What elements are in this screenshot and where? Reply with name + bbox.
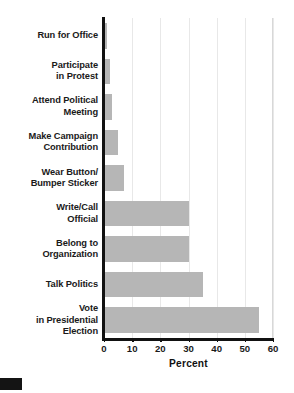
category-label-5: Wear Button/Bumper Sticker — [0, 167, 98, 190]
category-label-line: Participate — [0, 60, 98, 71]
category-label-line: Belong to — [0, 238, 98, 249]
category-label-8: Talk Politics — [0, 279, 98, 290]
category-label-2: Participatein Protest — [0, 60, 98, 83]
bar-row — [104, 18, 273, 54]
x-tick-label-10: 10 — [127, 343, 138, 354]
bar-2 — [104, 59, 110, 85]
category-label-1: Run for Office — [0, 30, 98, 41]
x-tick-mark-20 — [160, 338, 161, 342]
plot-area — [104, 18, 273, 338]
x-tick-mark-60 — [273, 338, 274, 342]
x-tick-mark-0 — [104, 338, 105, 342]
x-tick-mark-30 — [189, 338, 190, 342]
bar-6 — [104, 201, 189, 227]
bar-9 — [104, 307, 259, 333]
x-axis-tick-labels: 0102030405060 — [104, 343, 273, 357]
x-tick-label-0: 0 — [101, 343, 106, 354]
bar-row — [104, 231, 273, 267]
x-tick-mark-10 — [132, 338, 133, 342]
x-tick-label-50: 50 — [239, 343, 250, 354]
category-label-line: Attend Political — [0, 95, 98, 106]
category-label-6: Write/CallOfficial — [0, 202, 98, 225]
bar-3 — [104, 94, 112, 120]
bar-row — [104, 160, 273, 196]
bar-row — [104, 54, 273, 90]
category-label-3: Attend PoliticalMeeting — [0, 95, 98, 118]
gridline-60 — [273, 18, 274, 338]
category-label-line: Talk Politics — [0, 279, 98, 290]
y-axis-line — [102, 17, 105, 339]
category-label-line: Vote — [0, 303, 98, 314]
category-label-7: Belong toOrganization — [0, 238, 98, 261]
x-tick-label-60: 60 — [268, 343, 279, 354]
category-label-line: Official — [0, 214, 98, 225]
category-label-line: in Protest — [0, 71, 98, 82]
category-label-line: Bumper Sticker — [0, 178, 98, 189]
x-tick-label-30: 30 — [183, 343, 194, 354]
category-label-line: Contribution — [0, 142, 98, 153]
x-axis-title: Percent — [104, 358, 273, 369]
category-axis-labels: Run for OfficeParticipatein ProtestAtten… — [0, 18, 98, 338]
category-label-line: Wear Button/ — [0, 167, 98, 178]
x-tick-label-40: 40 — [211, 343, 222, 354]
bar-row — [104, 89, 273, 125]
category-label-line: Write/Call — [0, 202, 98, 213]
bar-row — [104, 267, 273, 303]
bar-chart-figure: Run for OfficeParticipatein ProtestAtten… — [0, 0, 294, 393]
category-label-9: Votein PresidentialElection — [0, 303, 98, 337]
bar-row — [104, 302, 273, 338]
category-label-4: Make CampaignContribution — [0, 131, 98, 154]
category-label-line: in Presidential — [0, 315, 98, 326]
bar-7 — [104, 236, 189, 262]
x-tick-mark-40 — [217, 338, 218, 342]
bar-8 — [104, 272, 203, 298]
bar-row — [104, 196, 273, 232]
corner-block-mark — [0, 378, 22, 390]
category-label-line: Meeting — [0, 107, 98, 118]
x-tick-label-20: 20 — [155, 343, 166, 354]
bars-group — [104, 18, 273, 338]
category-label-line: Make Campaign — [0, 131, 98, 142]
bar-5 — [104, 165, 124, 191]
bar-row — [104, 125, 273, 161]
category-label-line: Organization — [0, 249, 98, 260]
bar-4 — [104, 130, 118, 156]
category-label-line: Run for Office — [0, 30, 98, 41]
x-tick-mark-50 — [245, 338, 246, 342]
category-label-line: Election — [0, 326, 98, 337]
